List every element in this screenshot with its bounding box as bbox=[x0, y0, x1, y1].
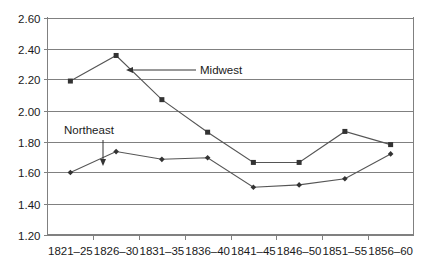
x-axis-tick-label: 1836–40 bbox=[185, 245, 230, 257]
x-axis-tick-label: 1846–50 bbox=[277, 245, 322, 257]
y-axis-tick-label: 1.80 bbox=[18, 137, 40, 149]
y-axis-tick-label: 1.40 bbox=[18, 199, 40, 211]
data-point-marker bbox=[114, 53, 119, 58]
x-axis-tick-label: 1851–55 bbox=[322, 245, 367, 257]
data-point-marker bbox=[388, 142, 393, 147]
x-axis-tick-label: 1821–25 bbox=[48, 245, 93, 257]
x-axis-ticks: 1821–251826–301831–351836–401841–451846–… bbox=[48, 235, 413, 257]
y-axis-tick-label: 2.60 bbox=[18, 13, 40, 25]
annotation-label: Midwest bbox=[200, 64, 243, 76]
y-axis-ticks: 2.602.402.202.001.801.601.401.20 bbox=[18, 13, 47, 242]
x-axis-tick-label: 1826–30 bbox=[94, 245, 139, 257]
data-point-marker bbox=[68, 79, 73, 84]
y-axis-tick-label: 2.40 bbox=[18, 44, 40, 56]
y-axis-tick-label: 1.20 bbox=[18, 230, 40, 242]
y-axis-tick-label: 1.60 bbox=[18, 167, 40, 179]
x-axis-tick-label: 1831–35 bbox=[139, 245, 184, 257]
x-axis-tick-label: 1856–60 bbox=[368, 245, 413, 257]
data-point-marker bbox=[297, 160, 302, 165]
data-point-marker bbox=[205, 130, 210, 135]
annotation-label: Northeast bbox=[64, 124, 115, 136]
line-chart: 2.602.402.202.001.801.601.401.20 1821–25… bbox=[0, 0, 424, 277]
y-axis-tick-label: 2.00 bbox=[18, 106, 40, 118]
data-point-marker bbox=[251, 160, 256, 165]
data-point-marker bbox=[342, 129, 347, 134]
x-axis-tick-label: 1841–45 bbox=[231, 245, 276, 257]
chart-container: 2.602.402.202.001.801.601.401.20 1821–25… bbox=[0, 0, 424, 277]
y-axis-tick-label: 2.20 bbox=[18, 74, 40, 86]
data-point-marker bbox=[159, 97, 164, 102]
